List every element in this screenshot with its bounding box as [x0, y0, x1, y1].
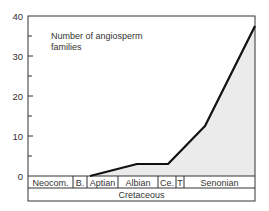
stage-label: Ce.	[160, 178, 174, 188]
y-tick-label: 10	[12, 131, 23, 142]
stage-label: B.	[76, 178, 85, 188]
title-line: Number of angiosperm	[51, 31, 143, 41]
area-fill	[90, 26, 255, 176]
area-shape	[90, 26, 255, 176]
stage-label: Albian	[125, 178, 150, 188]
stage-label: Senonian	[200, 178, 238, 188]
y-tick-label: 30	[12, 51, 23, 62]
x-axis-label: Cretaceous	[118, 190, 165, 200]
y-axis: 010203040	[12, 11, 33, 182]
chart-title: Number of angiospermfamilies	[51, 31, 143, 52]
stage-label: Aptian	[90, 178, 116, 188]
stage-label: T	[177, 178, 183, 188]
stage-label: Neocom.	[32, 178, 68, 188]
y-tick-label: 40	[12, 11, 23, 22]
angiosperm-chart: 010203040 Neocom.B.AptianAlbianCe.TSenon…	[0, 0, 269, 211]
y-tick-label: 0	[18, 171, 23, 182]
y-tick-label: 20	[12, 91, 23, 102]
title-line: families	[51, 42, 82, 52]
